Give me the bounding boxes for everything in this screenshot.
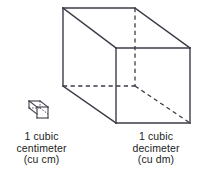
cubic-decimeter-label-line1: 1 cubic [108, 131, 204, 143]
figure-canvas: 1 cubic centimeter (cu cm) 1 cubic decim… [0, 0, 204, 176]
cubic-decimeter-label-line3: (cu dm) [108, 154, 204, 166]
small-edge-top-right-depth [40, 101, 48, 107]
cubic-decimeter-label: 1 cubic decimeter (cu dm) [108, 131, 204, 166]
cubic-centimeter-label-line3: (cu cm) [0, 154, 83, 166]
large-cube-visible-edges [63, 8, 190, 123]
edge-top-right-depth [135, 8, 190, 48]
hidden-edge-bottom-right-depth [135, 86, 190, 123]
cubic-centimeter-label-line1: 1 cubic [0, 131, 83, 143]
edge-top-left-depth [63, 8, 116, 48]
small-cube-visible-edges [29, 101, 48, 118]
small-edge-bottom-left-depth [29, 108, 37, 114]
cubic-decimeter-cube [63, 8, 190, 123]
large-cube-hidden-edges [63, 8, 190, 123]
small-edge-top-left-depth [29, 101, 37, 107]
edge-bottom-left-depth [63, 86, 116, 123]
small-hidden-edge-bottom-right-depth [40, 108, 48, 114]
cubic-centimeter-cube [29, 101, 48, 118]
cubic-centimeter-label: 1 cubic centimeter (cu cm) [0, 131, 83, 166]
